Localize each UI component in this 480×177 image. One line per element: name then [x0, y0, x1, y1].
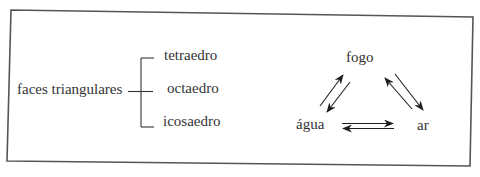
- branch-label-tetraedro: tetraedro: [164, 48, 217, 63]
- branch-label-icosaedro: icosaedro: [163, 114, 220, 129]
- arrow-ar-to-fogo: [385, 78, 412, 109]
- root-label: faces triangulares: [17, 82, 122, 97]
- branch-label-octaedro: octaedro: [167, 81, 219, 96]
- arrow-agua-to-fogo: [320, 75, 343, 106]
- classification-bracket: [128, 58, 154, 127]
- node-label-ar: ar: [417, 118, 429, 133]
- arrow-fogo-to-agua: [327, 82, 350, 112]
- node-label-fogo: fogo: [346, 50, 374, 65]
- diagram-figure: faces triangulares tetraedro octaedro ic…: [0, 0, 480, 177]
- arrow-fogo-to-ar: [395, 74, 423, 110]
- node-label-agua: água: [296, 117, 324, 132]
